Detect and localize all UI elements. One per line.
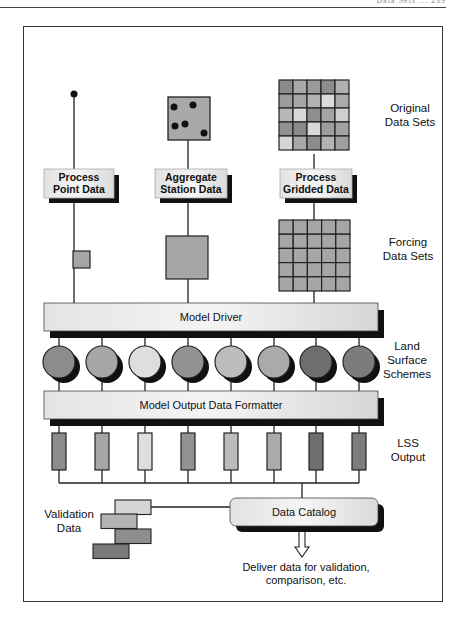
stage-label-output-1: LSS xyxy=(397,437,419,449)
lss-output-block xyxy=(309,433,323,470)
formatter-label: Model Output Data Formatter xyxy=(139,399,282,411)
scheme-circle xyxy=(300,346,337,383)
model-driver-bar: Model Driver xyxy=(44,303,384,338)
data-catalog-label: Data Catalog xyxy=(272,506,336,518)
lss-output-block xyxy=(224,433,238,470)
data-catalog-box: Data Catalog xyxy=(230,498,384,532)
stage-label-forcing-2: Data Sets xyxy=(383,250,434,262)
output-formatter-bar: Model Output Data Formatter xyxy=(44,391,384,426)
gridded-data-icon xyxy=(279,80,349,150)
lss-outputs xyxy=(52,433,366,470)
validation-block xyxy=(101,514,137,529)
process-label-2b: Station Data xyxy=(160,183,221,195)
point-data-icon xyxy=(71,91,78,98)
validation-data-stack xyxy=(93,500,151,559)
deliver-arrow-icon xyxy=(295,532,309,557)
forcing-point-icon xyxy=(73,251,90,268)
lss-output-block xyxy=(52,433,66,470)
stage-label-output-2: Output xyxy=(391,451,426,463)
process-label-3b: Gridded Data xyxy=(283,183,349,195)
lss-data-flow-diagram: Original Data Sets Process Point Data Ag… xyxy=(0,0,466,624)
model-driver-label: Model Driver xyxy=(180,311,243,323)
lss-output-block xyxy=(95,433,109,470)
stage-label-forcing-1: Forcing xyxy=(389,236,427,248)
stage-label-lss-2: Surface xyxy=(387,354,427,366)
station-data-icon xyxy=(168,97,210,140)
validation-label-1: Validation xyxy=(44,508,94,520)
scheme-circle xyxy=(129,346,166,383)
scheme-circle xyxy=(215,346,252,383)
deliver-text-1: Deliver data for validation, xyxy=(242,561,369,573)
scheme-circle xyxy=(258,346,295,383)
stage-label-original-1: Original xyxy=(390,102,430,114)
validation-label-2: Data xyxy=(57,522,82,534)
land-surface-schemes xyxy=(43,346,380,383)
stage-label-lss-3: Schemes xyxy=(383,368,431,380)
validation-block xyxy=(93,544,129,559)
scheme-circle xyxy=(343,346,380,383)
forcing-station-icon xyxy=(166,236,208,279)
forcing-grid-icon xyxy=(279,220,350,291)
stage-label-lss-1: Land xyxy=(394,340,420,352)
lss-output-block xyxy=(352,433,366,470)
lss-output-block xyxy=(181,433,195,470)
stage-label-original-2: Data Sets xyxy=(385,116,436,128)
process-label-1a: Process xyxy=(59,171,100,183)
aggregate-station-data-box: Aggregate Station Data xyxy=(155,169,232,203)
deliver-text-2: comparison, etc. xyxy=(266,574,347,586)
process-point-data-box: Process Point Data xyxy=(44,169,119,203)
scheme-circle xyxy=(86,346,123,383)
process-gridded-data-box: Process Gridded Data xyxy=(280,169,357,203)
process-label-2a: Aggregate xyxy=(165,171,217,183)
lss-output-block xyxy=(138,433,152,470)
scheme-circle xyxy=(43,346,80,383)
validation-block xyxy=(115,500,151,515)
process-label-1b: Point Data xyxy=(53,183,105,195)
validation-block xyxy=(115,529,151,544)
lss-output-block xyxy=(267,433,281,470)
scheme-circle xyxy=(172,346,209,383)
process-label-3a: Process xyxy=(296,171,337,183)
